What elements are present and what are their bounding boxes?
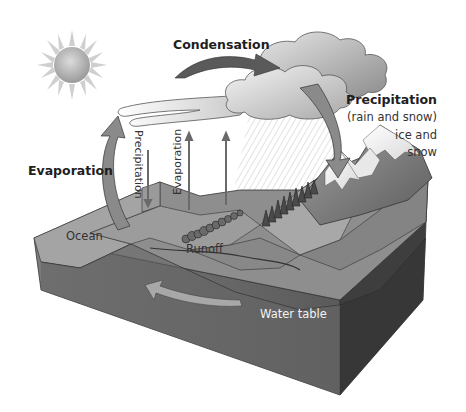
condensation-label: Condensation [173,37,270,52]
rain-and-snow-label: (rain and snow) [347,110,437,124]
precipitation-vertical-label: Precipitation [132,130,145,199]
evaporation-label: Evaporation [28,163,113,178]
water-cycle-diagram [0,0,466,412]
snow-label: snow [407,145,437,159]
evaporation-vertical-label: Evaporation [171,129,184,195]
water-table-label: Water table [260,307,327,321]
ocean-label: Ocean [66,229,103,243]
precipitation-label: Precipitation [346,92,437,107]
ice-and-label: ice and [395,128,437,142]
sun-icon [37,30,107,100]
runoff-label: Runoff [186,242,223,256]
